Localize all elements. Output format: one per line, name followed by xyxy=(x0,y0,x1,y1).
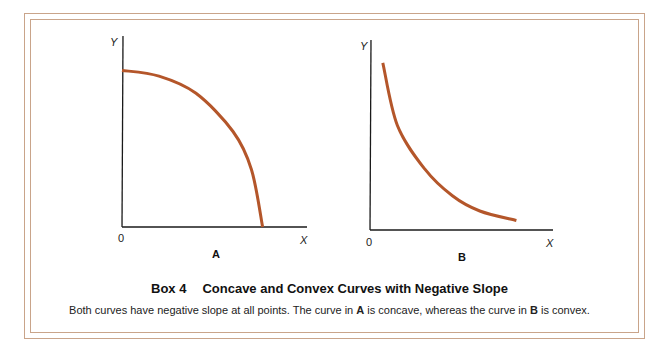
panel-a-y-axis-label: Y xyxy=(110,36,118,48)
panel-b-origin-label: 0 xyxy=(366,236,372,248)
panel-a-origin-label: 0 xyxy=(118,232,124,244)
panel-b-label: B xyxy=(458,251,466,263)
box-number: Box 4 xyxy=(151,281,186,296)
box-title: Box 4Concave and Convex Curves with Nega… xyxy=(0,281,659,296)
caption-text: is convex. xyxy=(538,304,590,316)
diagram-canvas: Y 0 X A Y 0 X B xyxy=(0,0,659,354)
panel-a-label: A xyxy=(212,248,220,260)
caption-text: Both curves have negative slope at all p… xyxy=(69,304,356,316)
panel-a: Y 0 X A xyxy=(110,36,308,260)
box-title-text: Concave and Convex Curves with Negative … xyxy=(202,281,508,296)
panel-a-x-axis-label: X xyxy=(299,234,308,246)
panel-b-y-axis xyxy=(370,40,371,230)
panel-b: Y 0 X B xyxy=(360,40,554,263)
panel-b-curve xyxy=(383,63,517,221)
panel-b-y-axis-label: Y xyxy=(360,40,368,52)
caption-text: is concave, whereas the curve in xyxy=(364,304,530,316)
box-caption: Both curves have negative slope at all p… xyxy=(0,304,659,316)
panel-b-x-axis-label: X xyxy=(545,237,554,249)
panel-a-y-axis xyxy=(122,36,123,227)
caption-panel-ref: B xyxy=(530,304,538,316)
panel-a-curve xyxy=(122,70,263,227)
